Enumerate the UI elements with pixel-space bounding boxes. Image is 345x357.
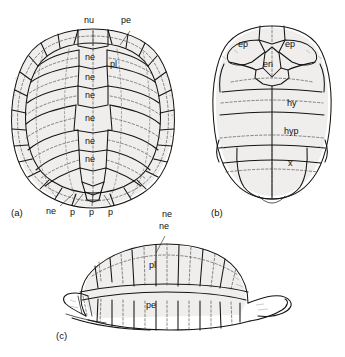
label-ne-a-1: ne (85, 53, 95, 62)
label-pe-c: pe (146, 301, 156, 310)
label-pl-a: pl (110, 60, 117, 69)
panel-letter-b: (b) (211, 208, 223, 218)
label-ne-c: ne (159, 222, 169, 231)
label-ne-a-4: ne (85, 114, 95, 123)
turtle-shell-figure: nu pe ne pl ne ne ne ne ne ne p p p ne e… (0, 0, 345, 357)
panel-c-lateral (64, 244, 292, 330)
label-pe-a: pe (121, 16, 131, 25)
figure-artwork (0, 0, 345, 357)
label-nu-a: nu (84, 16, 94, 25)
label-p-a-1: p (70, 208, 75, 217)
label-ne-a-5: ne (85, 137, 95, 146)
label-p-a-2: p (89, 208, 94, 217)
label-en: en (263, 60, 273, 69)
label-ep-left: ep (238, 40, 248, 49)
label-ne-a-8: ne (162, 210, 172, 219)
label-ne-a-6: ne (85, 155, 95, 164)
label-p-a-3: p (108, 208, 113, 217)
label-ep-right: ep (285, 40, 295, 49)
panel-b-plastron (213, 26, 331, 203)
panel-letter-a: (a) (11, 208, 23, 218)
panel-letter-c: (c) (56, 331, 67, 341)
label-pl-c: pl (149, 261, 156, 270)
label-x: x (288, 159, 293, 168)
label-ne-a-3: ne (85, 91, 95, 100)
label-hyp: hyp (284, 127, 299, 136)
label-hy: hy (287, 99, 297, 108)
label-ne-a-2: ne (85, 73, 95, 82)
label-ne-a-7: ne (46, 207, 56, 216)
